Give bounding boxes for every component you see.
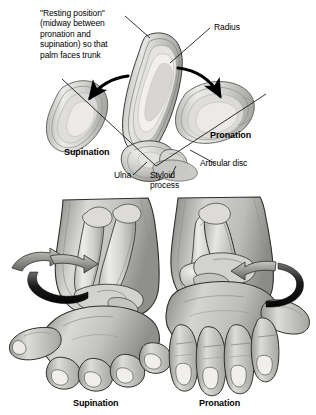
- resting-position-callout: "Resting position" (midway between prona…: [40, 8, 140, 60]
- styloid-process-label: Styloid process: [150, 170, 196, 191]
- bottom-supination-label: Supination: [73, 398, 119, 409]
- anatomy-figure: "Resting position" (midway between prona…: [0, 0, 316, 415]
- bottom-pronation-label: Pronation: [199, 398, 240, 409]
- top-pronation-label: Pronation: [210, 130, 251, 141]
- top-supination-label: Supination: [64, 147, 110, 158]
- ulna-label: Ulna: [114, 170, 131, 181]
- radius-label: Radius: [214, 22, 240, 33]
- figure-canvas: [0, 0, 316, 415]
- articular-disc-label: Articular disc: [200, 158, 247, 169]
